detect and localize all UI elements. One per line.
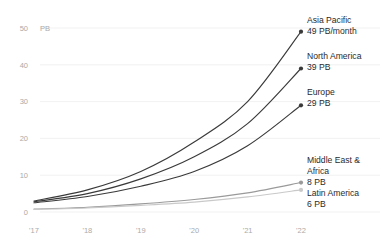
series-endpoint-marker [299, 180, 303, 184]
y-axis-unit-label: PB [40, 24, 50, 33]
annotation-value-label: 6 PB [307, 199, 326, 209]
annotation-series-name: Asia Pacific [307, 15, 352, 25]
y-axis-tick-label: 10 [20, 171, 28, 180]
series-endpoint-marker [299, 103, 303, 107]
x-axis-tick-label: '19 [136, 226, 146, 235]
x-axis-tick-label: '21 [243, 226, 253, 235]
annotation-series-name: Latin America [307, 188, 359, 198]
annotation-value-label: 39 PB [307, 62, 331, 72]
line-chart: 01020304050 PB '17'18'19'20'21'22 Asia P… [0, 0, 387, 245]
series-annotations: Asia Pacific49 PB/monthNorth America39 P… [307, 15, 362, 209]
annotation-value-label: 8 PB [307, 177, 326, 187]
y-axis-tick-label: 50 [20, 24, 28, 33]
x-axis-tick-label: '22 [296, 226, 306, 235]
x-axis-tick-label: '18 [83, 226, 93, 235]
series-line [34, 68, 301, 201]
series-endpoint-marker [299, 188, 303, 192]
annotation-value-label: 49 PB/month [307, 26, 357, 36]
x-axis-tick-label: '17 [29, 226, 39, 235]
annotation-value-label: 29 PB [307, 98, 331, 108]
x-axis-tick-label: '20 [189, 226, 199, 235]
y-axis-tick-label: 0 [24, 208, 28, 217]
y-axis-tick-label: 30 [20, 97, 28, 106]
annotation-series-name: Europe [307, 87, 335, 97]
series-endpoint-marker [299, 66, 303, 70]
y-axis-tick-label: 40 [20, 61, 28, 70]
y-axis-tick-label: 20 [20, 134, 28, 143]
series-lines [34, 32, 301, 210]
annotation-series-name: Middle East & [307, 155, 360, 165]
annotation-series-name-line2: Africa [307, 166, 329, 176]
series-line [34, 105, 301, 203]
chart-canvas: 01020304050 PB '17'18'19'20'21'22 Asia P… [0, 0, 387, 245]
x-axis-tick-labels: '17'18'19'20'21'22 [29, 226, 306, 235]
series-endpoint-markers [299, 30, 303, 192]
annotation-series-name: North America [307, 51, 362, 61]
y-axis-tick-labels: 01020304050 [20, 24, 28, 217]
series-endpoint-marker [299, 30, 303, 34]
